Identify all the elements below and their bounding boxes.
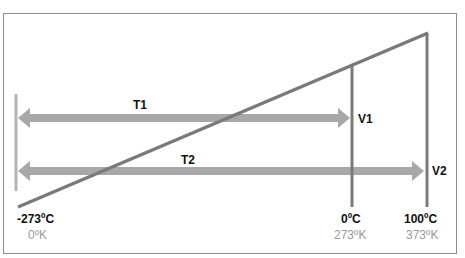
- t2-label: T2: [181, 153, 195, 167]
- v1-label: V1: [358, 112, 373, 126]
- label-100-celsius: 100ºC: [404, 212, 437, 226]
- charles-law-diagram: [0, 0, 465, 258]
- label-273-kelvin: 273ºK: [334, 228, 366, 242]
- v2-label: V2: [432, 164, 447, 178]
- label-0-kelvin: 0ºK: [28, 228, 47, 242]
- t1-label: T1: [133, 98, 147, 112]
- label-373-kelvin: 373ºK: [406, 228, 438, 242]
- label-0-celsius: 0ºC: [341, 212, 361, 226]
- label-minus273-celsius: -273ºC: [17, 212, 54, 226]
